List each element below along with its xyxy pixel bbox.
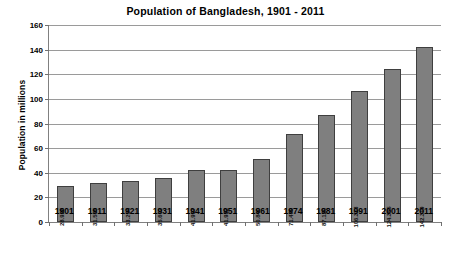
- y-axis-tick-mark: [45, 50, 49, 51]
- x-axis-tick-mark: [376, 222, 377, 226]
- x-axis-tick-label: 1951: [218, 206, 237, 216]
- gridline: [49, 148, 441, 149]
- bar[interactable]: 124.355: [384, 69, 401, 222]
- gridline: [49, 50, 441, 51]
- plot-area: 02040608010012014016028.92831.55533.2543…: [48, 25, 441, 223]
- y-axis-tick-mark: [45, 99, 49, 100]
- y-axis-tick-mark: [45, 124, 49, 125]
- y-axis-tick-mark: [45, 74, 49, 75]
- gridline: [49, 74, 441, 75]
- gridline: [49, 99, 441, 100]
- x-axis-tick-label: 1921: [120, 206, 139, 216]
- chart-title: Population of Bangladesh, 1901 - 2011: [0, 5, 451, 17]
- y-axis-tick-mark: [45, 25, 49, 26]
- y-axis-tick-label: 60: [34, 144, 43, 153]
- y-axis-tick-label: 0: [39, 218, 43, 227]
- x-axis-tick-mark: [408, 222, 409, 226]
- y-axis-tick-label: 100: [30, 94, 43, 103]
- x-axis-tick-mark: [147, 222, 148, 226]
- y-axis-tick-mark: [45, 173, 49, 174]
- bar-chart: Population of Bangladesh, 1901 - 2011 Po…: [0, 0, 451, 263]
- x-axis-tick-label: 1941: [186, 206, 205, 216]
- y-axis-tick-label: 160: [30, 21, 43, 30]
- y-axis-tick-mark: [45, 148, 49, 149]
- x-axis-tick-mark: [114, 222, 115, 226]
- y-axis-tick-label: 140: [30, 45, 43, 54]
- x-axis-tick-mark: [278, 222, 279, 226]
- x-axis-tick-label: 1981: [316, 206, 335, 216]
- y-axis-title: Population in millions: [17, 55, 27, 195]
- x-axis-tick-mark: [82, 222, 83, 226]
- x-axis-tick-mark: [310, 222, 311, 226]
- x-axis-tick-label: 1911: [88, 206, 106, 216]
- y-axis-tick-label: 120: [30, 70, 43, 79]
- y-axis-tick-label: 80: [34, 119, 43, 128]
- x-axis-tick-label: 1991: [349, 206, 368, 216]
- bar[interactable]: 28.928: [57, 186, 74, 222]
- y-axis-tick-label: 40: [34, 168, 43, 177]
- x-axis-tick-label: 1961: [251, 206, 270, 216]
- bar[interactable]: 142.319: [416, 47, 433, 222]
- x-axis-tick-mark: [441, 222, 442, 226]
- x-axis-tick-mark: [180, 222, 181, 226]
- x-axis-tick-label: 2011: [414, 206, 432, 216]
- x-axis-tick-label: 1974: [284, 206, 303, 216]
- gridline: [49, 25, 441, 26]
- gridline: [49, 173, 441, 174]
- bar[interactable]: 31.555: [90, 183, 107, 222]
- y-axis-tick-label: 20: [34, 193, 43, 202]
- x-axis-tick-mark: [245, 222, 246, 226]
- x-axis-tick-mark: [49, 222, 50, 226]
- gridline: [49, 124, 441, 125]
- x-axis-tick-mark: [212, 222, 213, 226]
- x-axis-tick-label: 1931: [153, 206, 172, 216]
- x-axis-tick-label: 1901: [55, 206, 74, 216]
- gridline: [49, 197, 441, 198]
- x-axis-tick-label: 2001: [382, 206, 401, 216]
- bar[interactable]: 106.313: [351, 91, 368, 222]
- x-axis-tick-mark: [343, 222, 344, 226]
- y-axis-tick-mark: [45, 197, 49, 198]
